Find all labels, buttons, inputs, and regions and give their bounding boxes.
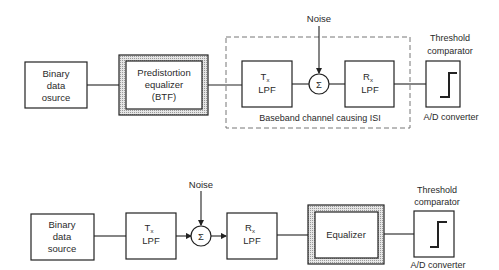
bottom-comparator-title2: comparator	[414, 197, 460, 207]
bottom-rx-lpf-block: Rx LPF	[227, 213, 277, 259]
top-comparator-title2: comparator	[427, 46, 473, 56]
top-source-line3: osurce	[42, 92, 71, 103]
predistortion-equalizer-block: Predistortion equalizer (BTF)	[119, 55, 208, 115]
bottom-diagram: Binary data source Tx LPF Noise Σ Rx LPF	[31, 179, 466, 270]
top-rx-lpf: LPF	[361, 84, 379, 95]
bottom-tx-sub: x	[150, 228, 153, 234]
top-source-line1: Binary	[43, 68, 70, 79]
top-summing-junction: Σ	[309, 74, 329, 94]
bottom-source-line1: Binary	[49, 219, 76, 230]
top-noise-label: Noise	[307, 13, 331, 24]
top-tx-lpf: LPF	[258, 84, 276, 95]
top-tx-lpf-block: Tx LPF	[242, 61, 292, 107]
bottom-summing-junction: Σ	[191, 226, 211, 246]
top-diagram: Binary data osurce Predistortion equaliz…	[25, 13, 479, 128]
bottom-rx-lpf: LPF	[243, 235, 261, 246]
bottom-noise-label: Noise	[189, 179, 213, 190]
top-rx-sub: x	[370, 77, 373, 83]
bottom-source-line2: data	[53, 231, 72, 242]
predistortion-line1: Predistortion	[137, 67, 190, 78]
top-sum-symbol: Σ	[316, 79, 322, 90]
top-tx-sub: x	[266, 77, 269, 83]
equalizer-label: Equalizer	[326, 229, 366, 240]
bottom-rx-sub: x	[252, 228, 255, 234]
bottom-binary-source-block: Binary data source	[31, 214, 94, 260]
top-threshold-comparator-block: Threshold comparator A/D converter	[423, 33, 478, 122]
predistortion-line3: (BTF)	[152, 91, 176, 102]
baseband-channel-label: Baseband channel causing ISI	[259, 113, 381, 123]
bottom-comparator-caption: A/D converter	[410, 260, 465, 270]
top-comparator-title1: Threshold	[430, 33, 470, 43]
bottom-sum-symbol: Σ	[198, 231, 204, 242]
bottom-source-line3: source	[48, 243, 77, 254]
bottom-threshold-comparator-block: Threshold comparator A/D converter	[410, 185, 465, 270]
top-rx-lpf-block: Rx LPF	[345, 61, 394, 107]
bottom-comparator-title1: Threshold	[417, 185, 457, 195]
top-comparator-caption: A/D converter	[423, 112, 478, 122]
block-diagrams: Binary data osurce Predistortion equaliz…	[0, 0, 499, 270]
equalizer-block: Equalizer	[308, 205, 384, 264]
top-source-line2: data	[47, 80, 66, 91]
top-binary-source-block: Binary data osurce	[25, 62, 87, 108]
predistortion-line2: equalizer	[145, 79, 184, 90]
bottom-tx-lpf: LPF	[142, 235, 160, 246]
bottom-tx-lpf-block: Tx LPF	[126, 213, 176, 259]
